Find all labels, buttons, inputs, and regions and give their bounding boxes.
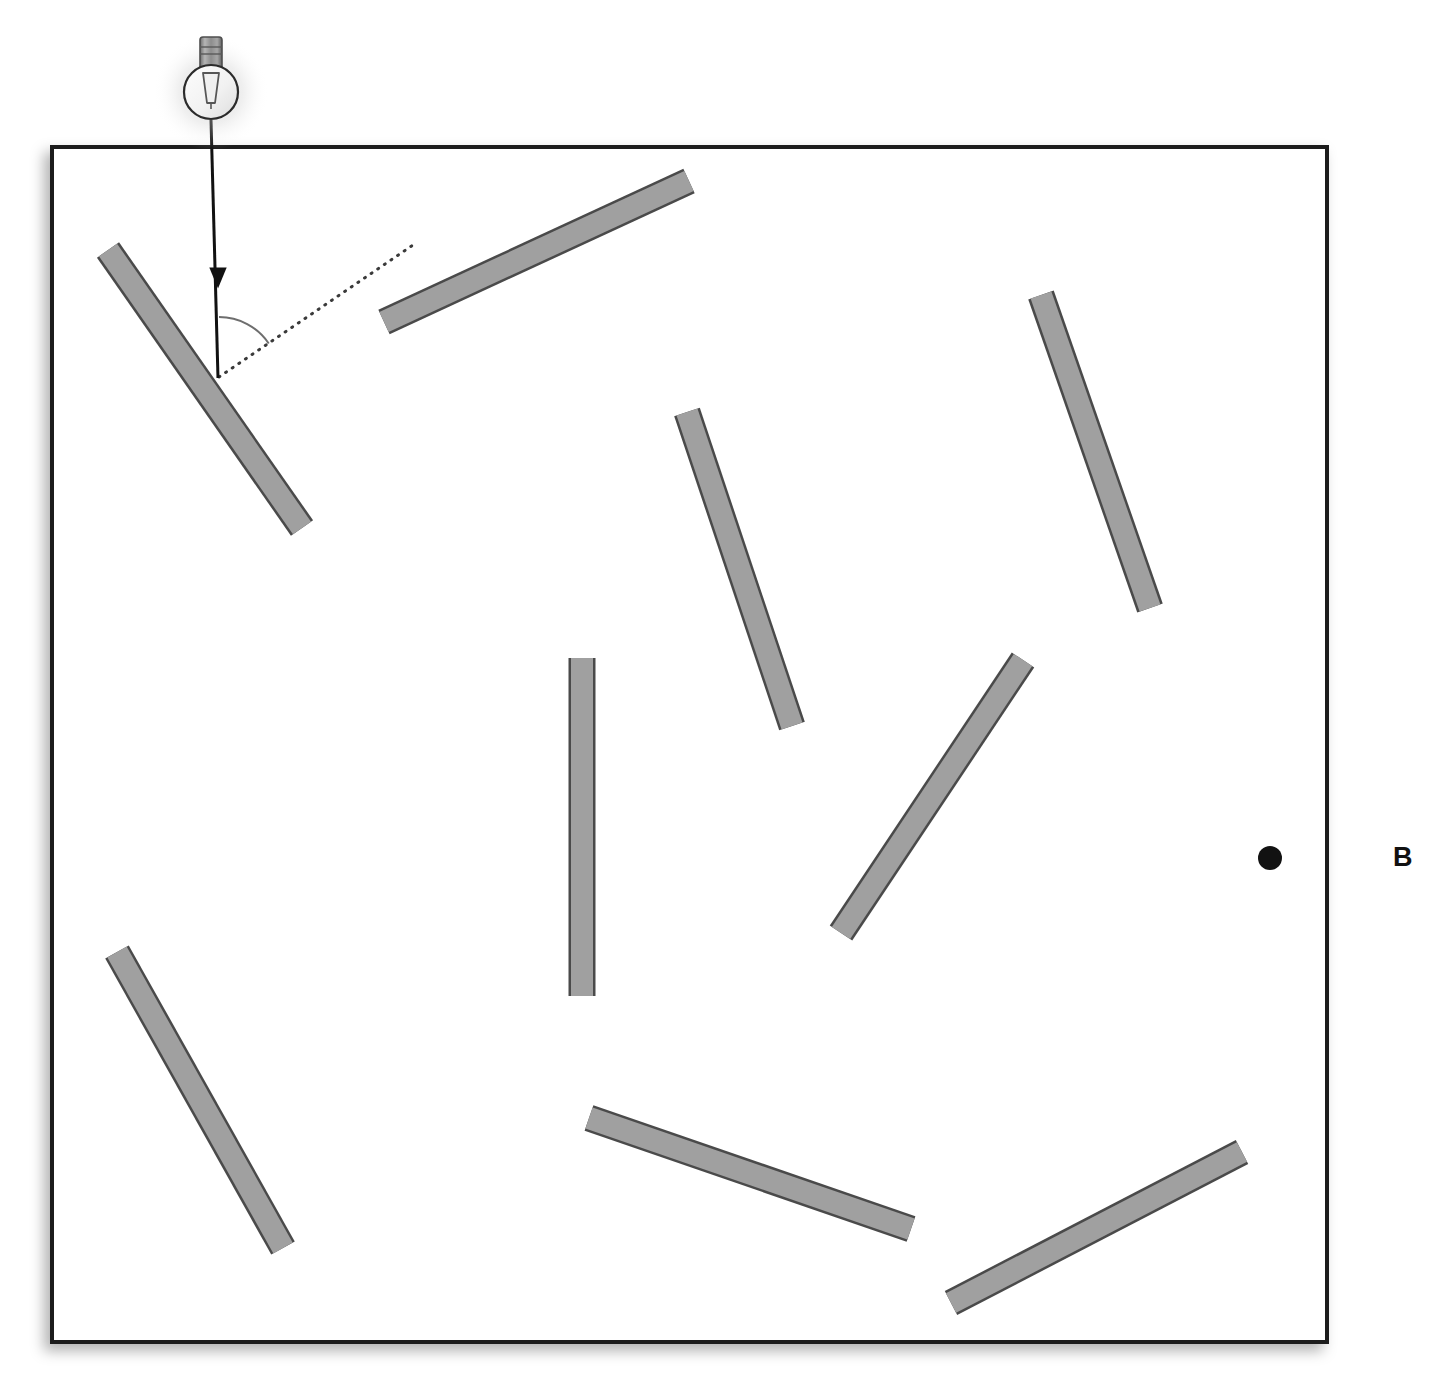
light-bulb [153,34,269,150]
diagram-svg [0,0,1431,1382]
panel-label-b: B [1393,844,1413,871]
detector-point [1258,846,1282,870]
figure-canvas: B [0,0,1431,1382]
